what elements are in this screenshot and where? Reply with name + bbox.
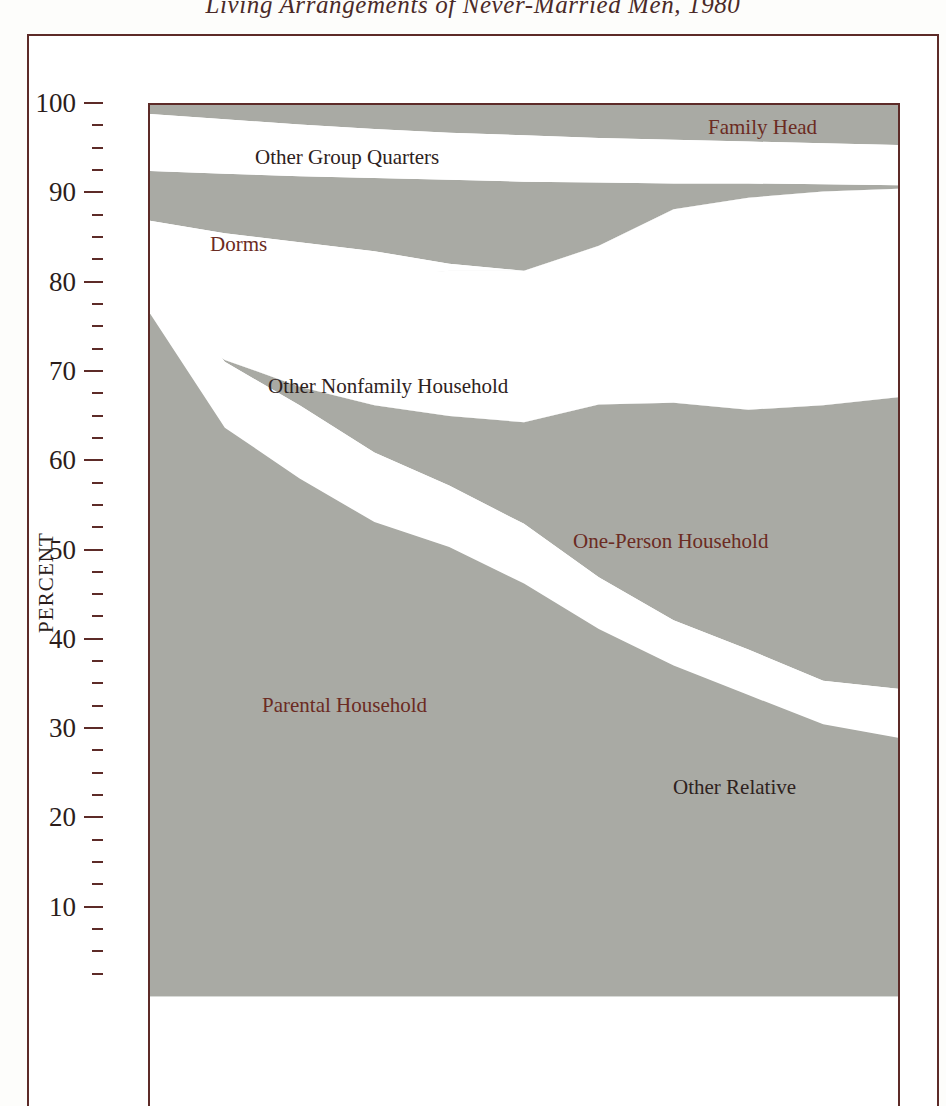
series-label-dorms: Dorms	[210, 232, 267, 257]
series-label-other-relative: Other Relative	[673, 775, 796, 800]
series-label-other-group-quarters: Other Group Quarters	[255, 145, 439, 170]
y-axis-title: PERCENT	[34, 503, 59, 663]
page-title: Living Arrangements of Never-Married Men…	[0, 0, 946, 19]
series-label-one-person-household: One-Person Household	[573, 529, 768, 554]
series-label-parental-household: Parental Household	[262, 693, 427, 718]
series-label-family-head: Family Head	[708, 115, 817, 140]
series-label-other-nonfamily-household: Other Nonfamily Household	[268, 374, 508, 399]
